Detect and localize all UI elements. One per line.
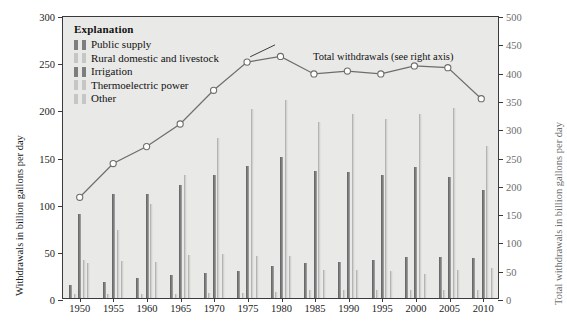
right-axis-title: Total withdrawals in billion gallons per… (553, 122, 564, 305)
right-tick (498, 17, 503, 18)
x-tick-label: 1985 (305, 303, 326, 314)
left-tick-label: 0 (50, 295, 55, 306)
right-tick-label: 350 (506, 96, 522, 107)
right-tick (498, 187, 503, 188)
right-tick-label: 300 (506, 125, 522, 136)
left-tick-label: 250 (39, 59, 55, 70)
left-tick-label: 300 (39, 12, 55, 23)
x-tick-label: 2005 (439, 303, 460, 314)
right-tick-label: 250 (506, 153, 522, 164)
right-tick-label: 400 (506, 68, 522, 79)
right-tick (498, 159, 503, 160)
x-tick-label: 1970 (204, 303, 225, 314)
right-tick-label: 150 (506, 210, 522, 221)
right-tick-label: 450 (506, 40, 522, 51)
right-tick (498, 45, 503, 46)
left-tick-label: 100 (39, 200, 55, 211)
x-tick-label: 1995 (372, 303, 393, 314)
x-tick-label: 2010 (473, 303, 494, 314)
right-tick (498, 243, 503, 244)
right-tick-label: 50 (506, 266, 517, 277)
right-tick (498, 272, 503, 273)
left-tick-label: 200 (39, 106, 55, 117)
left-tick (58, 300, 63, 301)
left-axis-title: Withdrawals in billion gallons per day (14, 135, 25, 296)
right-tick-label: 200 (506, 181, 522, 192)
x-tick-label: 1980 (271, 303, 292, 314)
left-tick-label: 150 (39, 153, 55, 164)
plot-area: 050100150200250300 050100150200250300350… (62, 16, 499, 299)
x-tick-label: 1955 (103, 303, 124, 314)
chart-root: Withdrawals in billion gallons per day T… (0, 0, 567, 325)
right-tick (498, 300, 503, 301)
right-tick (498, 130, 503, 131)
right-tick (498, 74, 503, 75)
x-tick-label: 1975 (237, 303, 258, 314)
right-tick (498, 102, 503, 103)
x-tick-label: 1990 (338, 303, 359, 314)
x-tick-label: 1950 (69, 303, 90, 314)
right-tick-label: 500 (506, 12, 522, 23)
x-tick-label: 1960 (137, 303, 158, 314)
right-tick-label: 0 (506, 295, 511, 306)
x-tick-label: 1965 (170, 303, 191, 314)
left-tick-label: 50 (45, 247, 56, 258)
annotation-leader-line (63, 17, 498, 299)
x-tick-label: 2000 (405, 303, 426, 314)
right-tick (498, 215, 503, 216)
right-tick-label: 100 (506, 238, 522, 249)
